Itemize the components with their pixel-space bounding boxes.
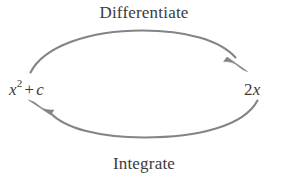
integrate-arc-path	[51, 101, 258, 138]
expr-coefficient-2: 2	[244, 80, 253, 99]
differentiate-arc-path	[31, 31, 236, 73]
integrate-arrow	[29, 100, 258, 138]
differentiate-label: Differentiate	[0, 4, 288, 21]
node-label-antiderivative: x2+c	[9, 81, 44, 98]
cycle-diagram-canvas: Differentiate Integrate x2+c 2x	[0, 0, 288, 179]
integrate-label: Integrate	[0, 155, 288, 172]
expr-constant-c: c	[36, 80, 44, 99]
expr-exponent-2: 2	[17, 77, 23, 89]
differentiate-arrow	[31, 31, 248, 73]
expr-variable-x: x	[253, 80, 261, 99]
expr-base-x: x	[9, 80, 17, 99]
integrate-arrowhead-icon	[29, 100, 55, 115]
expr-operator-plus: +	[22, 80, 36, 99]
differentiate-arrowhead-icon	[224, 57, 248, 72]
node-label-derivative: 2x	[244, 81, 260, 98]
